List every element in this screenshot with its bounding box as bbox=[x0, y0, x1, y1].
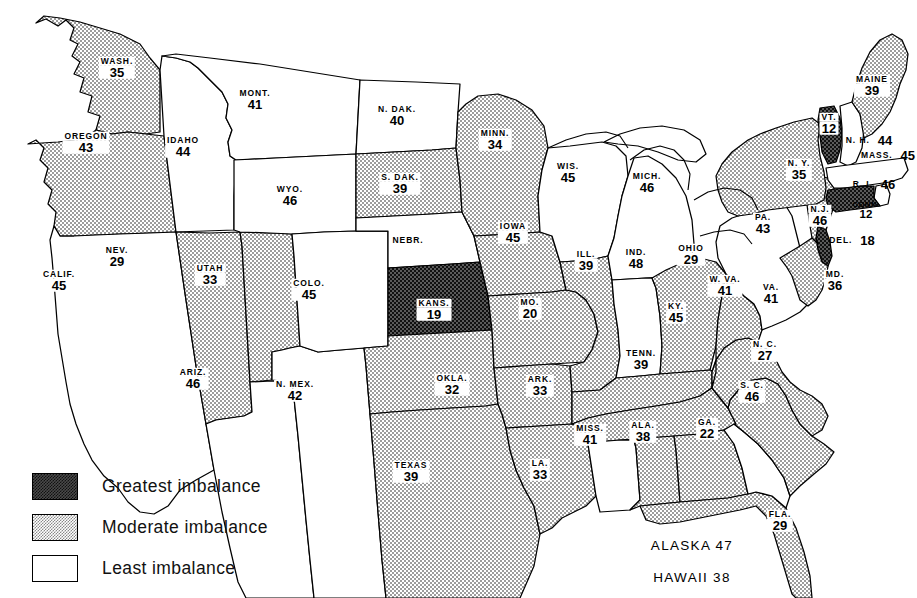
state-shape-VT bbox=[818, 106, 842, 164]
state-shape-MISS bbox=[588, 440, 640, 512]
state-shape-KANS bbox=[388, 262, 492, 336]
state-shape-MO bbox=[488, 290, 598, 368]
offshore-label-ALASKA: ALASKA 47 bbox=[651, 538, 733, 553]
legend-label-least: Least imbalance bbox=[102, 558, 235, 579]
greatest-imbalance-swatch bbox=[32, 473, 78, 500]
legend-row-least[interactable]: Least imbalance bbox=[32, 548, 268, 589]
state-shape-SDAK bbox=[356, 148, 462, 218]
state-shape-NY bbox=[716, 118, 826, 216]
state-shape-IOWA bbox=[474, 232, 566, 296]
state-shape-IND bbox=[612, 278, 662, 378]
state-shape-OREG bbox=[28, 130, 176, 236]
map-legend: Greatest imbalance Moderate imbalance Le… bbox=[32, 466, 268, 589]
legend-row-moderate[interactable]: Moderate imbalance bbox=[32, 507, 268, 548]
state-shape-ARK bbox=[494, 364, 572, 428]
state-shape-MINN bbox=[456, 94, 548, 236]
offshore-label-HAWAII: HAWAII 38 bbox=[653, 570, 730, 585]
state-shape-OHIO bbox=[652, 258, 726, 374]
state-shape-MASS bbox=[826, 158, 908, 188]
legend-row-greatest[interactable]: Greatest imbalance bbox=[32, 466, 268, 507]
legend-label-moderate: Moderate imbalance bbox=[102, 517, 268, 538]
moderate-imbalance-swatch bbox=[32, 514, 78, 541]
state-shape-WYO bbox=[234, 154, 356, 234]
least-imbalance-swatch bbox=[32, 555, 78, 582]
state-shape-COLO bbox=[292, 231, 388, 352]
state-shape-WASH bbox=[36, 16, 160, 134]
state-shape-NDAK bbox=[356, 80, 460, 154]
state-shape-CONN bbox=[826, 186, 880, 212]
legend-label-greatest: Greatest imbalance bbox=[102, 476, 261, 497]
